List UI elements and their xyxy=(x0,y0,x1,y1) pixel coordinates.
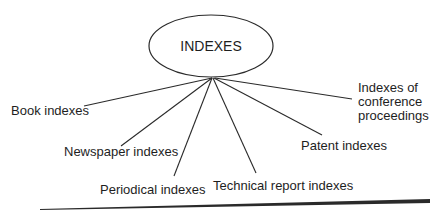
edge-conference xyxy=(215,78,352,99)
conference-label-line-3: proceedings xyxy=(358,108,429,123)
indexes-diagram: INDEXES Book indexes Newspaper indexes P… xyxy=(0,0,430,210)
root-label: INDEXES xyxy=(180,38,241,54)
root-node: INDEXES xyxy=(149,15,273,77)
child-technical-report-indexes: Technical report indexes xyxy=(213,178,354,193)
edge-technical-report xyxy=(213,78,256,173)
child-patent-indexes: Patent indexes xyxy=(301,138,388,153)
conference-label-line-1: Indexes of xyxy=(358,80,418,95)
child-book-indexes: Book indexes xyxy=(11,103,90,118)
child-newspaper-indexes: Newspaper indexes xyxy=(64,144,179,159)
edges xyxy=(84,78,352,176)
child-conference-proceedings-indexes: Indexes of conference proceedings xyxy=(358,80,429,123)
bottom-rule xyxy=(40,199,430,210)
conference-label-line-2: conference xyxy=(358,94,422,109)
child-periodical-indexes: Periodical indexes xyxy=(100,182,206,197)
